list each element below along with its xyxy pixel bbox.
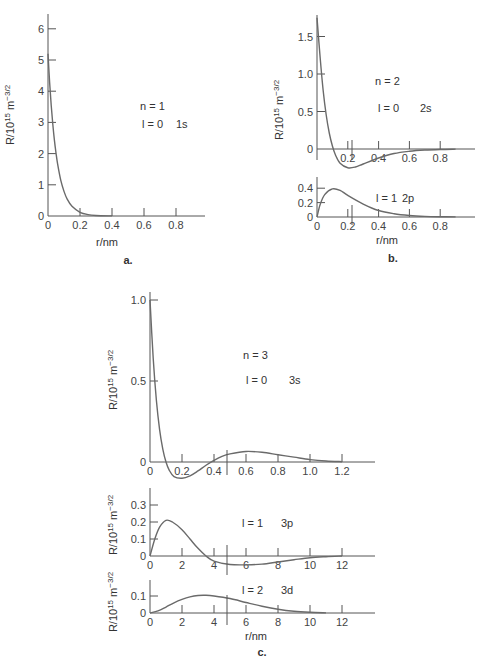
panel-b-l1-label: l = 1 (376, 192, 397, 204)
panel-c-l2-label: l = 2 (242, 584, 263, 596)
panel-b-n-label: n = 2 (375, 75, 400, 87)
x-tick-label: 10 (304, 616, 316, 628)
x-tick-label: 12 (336, 559, 348, 571)
x-tick-label: 0.8 (433, 152, 448, 164)
panel-c-orb1-label: 3p (281, 517, 293, 529)
curve-3d (150, 595, 326, 613)
y-tick-label: 0.2 (131, 516, 146, 528)
y-tick-label: 1.0 (298, 68, 313, 80)
y-tick-label: 0.3 (131, 499, 146, 511)
panel-b-2s: 00.51.01.50.20.40.60.8R/1015 m−3/2 (272, 15, 475, 168)
panel-b-orb0-label: 2s (420, 102, 432, 114)
y-tick-label: 6 (38, 23, 44, 35)
y-tick-label: 0 (38, 210, 44, 222)
x-tick-label: 0.2 (72, 219, 87, 231)
x-tick-label: 0.4 (206, 465, 221, 477)
x-tick-label: 6 (243, 616, 249, 628)
panel-a-1s: 012345600.20.40.60.8R/1015 m−3/2 (3, 14, 205, 231)
panel-a-n-label: n = 1 (140, 100, 165, 112)
x-tick-label: 0 (147, 465, 153, 477)
panel-c-xlabel: r/nm (245, 630, 267, 642)
x-tick-label: 0.4 (104, 219, 119, 231)
x-tick-label: 0.6 (402, 220, 417, 232)
panel-c-3s: 00.51.000.20.40.60.81.01.2R/1015 m−3/2 (106, 292, 375, 478)
y-tick-label: 0 (140, 607, 146, 619)
y-tick-label: 0 (140, 550, 146, 562)
y-tick-label: 1.5 (298, 31, 313, 43)
x-tick-label: 0.8 (270, 465, 285, 477)
y-tick-label: 0 (140, 456, 146, 468)
y-tick-label: 0.1 (131, 533, 146, 545)
x-tick-label: 0 (147, 559, 153, 571)
panel-a-caption: a. (123, 254, 132, 266)
x-tick-label: 8 (275, 559, 281, 571)
y-tick-label: 0 (307, 143, 313, 155)
panel-c-3d: 00.1024681012R/1015 m−3/2 (106, 571, 375, 632)
curve-2s (317, 18, 456, 168)
radial-wavefunction-figure: 012345600.20.40.60.8R/1015 m−3/2 00.51.0… (0, 0, 477, 660)
x-tick-label: 1.0 (302, 465, 317, 477)
panel-a-l-label: l = 0 (142, 118, 163, 130)
panel-c-caption: c. (257, 646, 266, 658)
panel-b-2p: 00.20.400.20.40.60.8 (298, 177, 475, 232)
x-tick-label: 0.2 (174, 465, 189, 477)
y-tick-label: 0.5 (298, 106, 313, 118)
y-tick-label: 1 (38, 179, 44, 191)
y-tick-label: 0.4 (298, 182, 313, 194)
x-tick-label: 0.4 (371, 220, 386, 232)
curve-1s (48, 54, 112, 216)
x-tick-label: 0.2 (340, 152, 355, 164)
x-tick-label: 0 (147, 616, 153, 628)
panel-b-orb1-label: 2p (402, 192, 414, 204)
panel-a-xlabel: r/nm (96, 236, 118, 248)
x-tick-label: 0 (314, 220, 320, 232)
y-axis-label: R/1015 m−3/2 (106, 571, 119, 632)
y-tick-label: 0.5 (131, 375, 146, 387)
x-tick-label: 0.6 (402, 152, 417, 164)
x-tick-label: 2 (179, 559, 185, 571)
curve-3s (150, 300, 342, 478)
panel-b-l0-label: l = 0 (378, 102, 399, 114)
y-axis-label: R/1015 m−3/2 (272, 79, 285, 140)
x-tick-label: 4 (211, 616, 217, 628)
y-axis-label: R/1015 m−3/2 (3, 84, 16, 145)
y-tick-label: 4 (38, 85, 44, 97)
x-tick-label: 0 (45, 219, 51, 231)
y-tick-label: 2 (38, 148, 44, 160)
panel-c-orb0-label: 3s (289, 374, 301, 386)
x-tick-label: 8 (275, 616, 281, 628)
x-tick-label: 0.8 (168, 219, 183, 231)
panel-c-n-label: n = 3 (243, 349, 268, 361)
y-tick-label: 0 (307, 211, 313, 223)
y-tick-label: 5 (38, 54, 44, 66)
x-tick-label: 10 (304, 559, 316, 571)
x-tick-label: 1.2 (334, 465, 349, 477)
panel-b-xlabel: r/nm (376, 234, 398, 246)
x-tick-label: 0.8 (433, 220, 448, 232)
x-tick-label: 0.2 (340, 220, 355, 232)
panel-c-l1-label: l = 1 (242, 517, 263, 529)
panel-a-orbital-label: 1s (176, 118, 188, 130)
panel-b-caption: b. (388, 252, 398, 264)
x-tick-label: 12 (336, 616, 348, 628)
y-tick-label: 0.1 (131, 590, 146, 602)
y-axis-label: R/1015 m−3/2 (106, 494, 119, 555)
x-tick-label: 0.6 (136, 219, 151, 231)
x-tick-label: 0.6 (238, 465, 253, 477)
x-tick-label: 2 (179, 616, 185, 628)
panel-c-orb2-label: 3d (281, 584, 293, 596)
y-tick-label: 3 (38, 116, 44, 128)
panel-c-3p: 00.10.20.3024681012R/1015 m−3/2 (106, 488, 375, 575)
y-tick-label: 0.2 (298, 197, 313, 209)
panel-c-l0-label: l = 0 (246, 374, 267, 386)
y-axis-label: R/1015 m−3/2 (106, 349, 119, 410)
y-tick-label: 1.0 (131, 294, 146, 306)
